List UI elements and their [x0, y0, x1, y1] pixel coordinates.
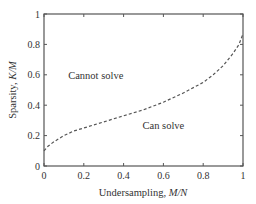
y-tick-label: 0.2	[28, 130, 41, 141]
y-tick-label: 0.8	[28, 39, 41, 50]
x-axis-label: Undersampling, M/N	[99, 187, 189, 198]
y-tick-label: 0.4	[28, 100, 41, 111]
y-tick-labels: 00.20.40.60.81	[28, 9, 41, 172]
x-tick-label: 0.6	[157, 170, 170, 181]
y-tick-label: 0.6	[28, 69, 41, 80]
plot-frame	[44, 14, 243, 166]
x-tick-label: 0.2	[78, 170, 91, 181]
phase-transition-curve	[44, 34, 243, 151]
x-tick-label: 0	[42, 170, 47, 181]
y-tick-label: 1	[35, 9, 40, 20]
can-solve-label: Can solve	[143, 120, 185, 131]
x-tick-labels: 00.20.40.60.81	[42, 170, 246, 181]
y-axis-label: Sparsity, K/M	[7, 60, 18, 119]
x-tick-label: 0.8	[197, 170, 210, 181]
y-tick-label: 0	[35, 161, 40, 172]
cannot-solve-label: Cannot solve	[68, 70, 123, 81]
axis-ticks	[44, 14, 243, 166]
x-tick-label: 0.4	[117, 170, 130, 181]
phase-transition-chart: 00.20.40.60.81 00.20.40.60.81 Cannot sol…	[0, 0, 256, 204]
x-tick-label: 1	[241, 170, 246, 181]
